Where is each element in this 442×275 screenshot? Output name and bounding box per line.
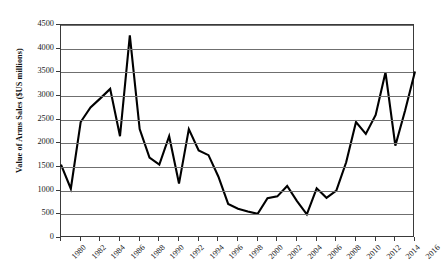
x-axis-tick: [316, 237, 317, 241]
gridline: [61, 167, 413, 168]
plot-area: [60, 24, 414, 237]
x-axis-tick: [375, 237, 376, 241]
x-axis-tick: [178, 237, 179, 241]
x-axis-tick: [355, 237, 356, 241]
x-axis-tick: [394, 237, 395, 241]
x-axis-tick: [414, 237, 415, 241]
x-axis-tick: [139, 237, 140, 241]
y-axis-tick-label: 4500: [18, 19, 54, 28]
y-axis-tick-label: 2000: [18, 137, 54, 146]
gridline: [61, 214, 413, 215]
y-axis-tick-label: 3000: [18, 90, 54, 99]
gridline: [61, 143, 413, 144]
gridline: [61, 96, 413, 97]
x-axis-tick: [276, 237, 277, 241]
x-axis-tick: [296, 237, 297, 241]
y-axis-tick-label: 1500: [18, 161, 54, 170]
x-axis-tick: [257, 237, 258, 241]
x-axis-tick: [335, 237, 336, 241]
x-axis-tick: [119, 237, 120, 241]
gridline: [61, 25, 413, 26]
x-axis-tick: [237, 237, 238, 241]
y-axis-tick-label: 2500: [18, 114, 54, 123]
series-line: [61, 35, 415, 214]
x-axis-tick: [80, 237, 81, 241]
y-axis-tick-label: 0: [18, 232, 54, 241]
x-axis-tick: [60, 237, 61, 241]
data-line-series: [61, 25, 415, 238]
gridline: [61, 72, 413, 73]
x-axis-tick: [217, 237, 218, 241]
gridline: [61, 120, 413, 121]
gridline: [61, 191, 413, 192]
gridline: [61, 49, 413, 50]
y-axis-tick-label: 3500: [18, 66, 54, 75]
x-axis-tick: [158, 237, 159, 241]
x-axis-tick: [99, 237, 100, 241]
y-axis-tick-label: 1000: [18, 185, 54, 194]
x-axis-tick: [198, 237, 199, 241]
y-axis-tick-label: 500: [18, 208, 54, 217]
y-axis-tick-label: 4000: [18, 43, 54, 52]
